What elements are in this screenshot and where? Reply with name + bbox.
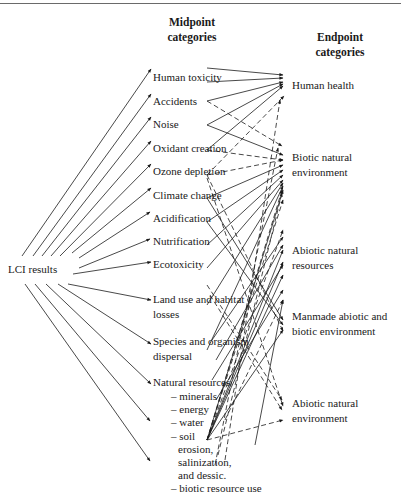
midpoint-ozone-depletion: Ozone depletion <box>153 164 225 179</box>
natural-resource-subitem: – soil <box>153 430 262 443</box>
endpoint-human-health: Human health <box>292 78 354 93</box>
endpoint-label-line: environment <box>292 165 352 180</box>
midpoint-land-use: Land use and habitatlosses <box>153 292 244 322</box>
midpoint-label-line: Accidents <box>153 94 197 109</box>
natural-resource-subitem: and dessic. <box>153 469 262 482</box>
midpoint-label-line: dispersal <box>153 349 249 364</box>
natural-resource-subitem: – minerals <box>153 390 262 403</box>
midpoint-noise: Noise <box>153 117 179 132</box>
endpoint-label-line: Biotic natural <box>292 150 352 165</box>
midpoint-label-line: losses <box>153 307 244 322</box>
lci-results-label: LCI results <box>8 262 57 277</box>
midpoint-label-line: Natural resources <box>153 375 262 390</box>
source-arrow <box>22 69 151 256</box>
midpoint-label-line: Ecotoxicity <box>153 257 204 272</box>
natural-resource-subitem: – energy <box>153 403 262 416</box>
midpoint-label-line: Species and organism <box>153 334 249 349</box>
endpoint-label-line: Human health <box>292 78 354 93</box>
midpoint-nutrification: Nutrification <box>153 234 210 249</box>
endpoint-label-line: Manmade abiotic and <box>292 309 387 324</box>
midpoint-label-line: Land use and habitat <box>153 292 244 307</box>
midpoint-natural-resources: Natural resources– minerals– energy– wat… <box>153 375 262 496</box>
midpoint-label-line: Ozone depletion <box>153 164 225 179</box>
midpoint-label-line: Nutrification <box>153 234 210 249</box>
source-arrow <box>51 141 151 256</box>
source-arrow <box>42 117 151 256</box>
endpoint-label-line: biotic environment <box>292 324 387 339</box>
endpoint-label-line: Abiotic natural <box>292 243 358 258</box>
source-arrow <box>25 284 150 461</box>
midpoint-label-line: Climate change <box>153 188 222 203</box>
midpoint-human-toxicity: Human toxicity <box>153 70 222 85</box>
midpoint-label-line: Noise <box>153 117 179 132</box>
midpoint-label-line: Acidification <box>153 211 211 226</box>
source-arrow <box>33 94 151 256</box>
endpoint-abiotic-natural-resources: Abiotic naturalresources <box>292 243 358 273</box>
direct-link-arrow <box>207 186 283 350</box>
endpoint-label-line: resources <box>292 258 358 273</box>
endpoint-biotic-natural-environment: Biotic naturalenvironment <box>292 150 352 180</box>
midpoint-ecotoxicity: Ecotoxicity <box>153 257 204 272</box>
endpoint-label-line: Abiotic natural <box>292 396 358 411</box>
natural-resource-subitem: – biotic resource use <box>153 482 262 495</box>
endpoint-label-line: environment <box>292 411 358 426</box>
direct-link-arrow <box>212 237 283 340</box>
source-arrow <box>58 284 151 344</box>
endpoint-manmade-environment: Manmade abiotic andbiotic environment <box>292 309 387 339</box>
midpoint-accidents: Accidents <box>153 94 197 109</box>
source-arrow <box>68 284 151 300</box>
midpoint-oxidant-creation: Oxidant creation <box>153 141 227 156</box>
source-arrow <box>60 164 151 256</box>
endpoint-abiotic-natural-environment: Abiotic naturalenvironment <box>292 396 358 426</box>
natural-resource-subitem: salinization, <box>153 456 262 469</box>
midpoint-label-line: Oxidant creation <box>153 141 227 156</box>
direct-link-arrow <box>207 84 283 125</box>
midpoint-acidification: Acidification <box>153 211 211 226</box>
source-arrow <box>73 262 151 274</box>
source-arrow <box>79 212 150 258</box>
natural-resource-subitem: erosion, <box>153 443 262 456</box>
midpoint-species-dispersal: Species and organismdispersal <box>153 334 249 364</box>
midpoint-climate-change: Climate change <box>153 188 222 203</box>
natural-resource-subitem: – water <box>153 416 262 429</box>
source-arrow <box>35 284 150 421</box>
indirect-link-arrow <box>207 101 282 146</box>
midpoint-label-line: Human toxicity <box>153 70 222 85</box>
